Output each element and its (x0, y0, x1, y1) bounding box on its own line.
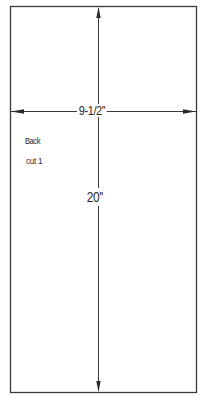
arrow-up-icon (96, 7, 100, 18)
cut-instruction-label: cut 1 (26, 157, 42, 166)
arrow-down-icon (96, 381, 100, 392)
arrow-right-icon (183, 109, 196, 113)
width-dimension-label: 9-1/2'' (77, 104, 107, 117)
piece-name-label: Back (25, 137, 40, 146)
arrow-left-icon (11, 109, 24, 113)
height-dimension-label: 20'' (86, 188, 104, 206)
